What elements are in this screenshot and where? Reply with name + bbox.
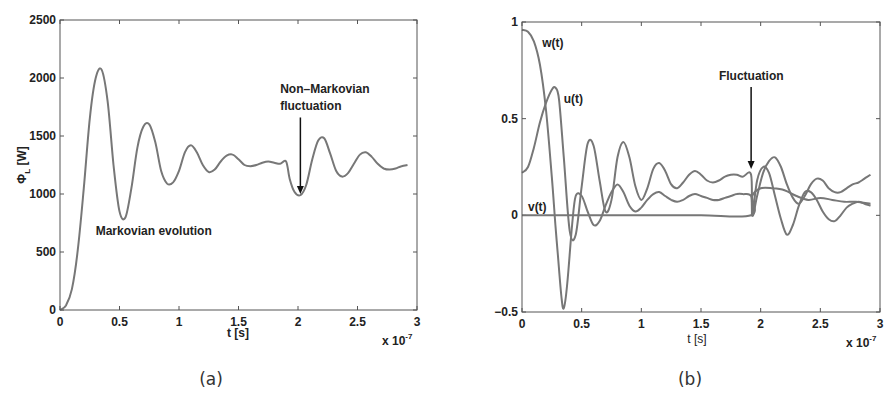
y-tick-label: 0: [49, 303, 56, 317]
x-multiplier-a: x 10-7: [382, 332, 413, 348]
y-tick-label: 500: [36, 245, 56, 259]
x-tick-label: 2.5: [812, 317, 829, 331]
y-tick-labels-a: 05001000150020002500: [29, 13, 417, 317]
y-tick-label: 1: [511, 15, 518, 29]
x-tick-label: 2: [757, 317, 764, 331]
y-tick-labels-b: −0.500.51: [494, 15, 880, 319]
y-tick-label: 0: [511, 208, 518, 222]
y-axis-label-a: ΦL [W]: [15, 146, 32, 183]
x-tick-label: 2: [295, 315, 302, 329]
x-tick-label: 0: [57, 315, 64, 329]
arrow-head-icon: [748, 161, 755, 169]
annotation-label: Markovian evolution: [96, 224, 212, 238]
x-tick-label: 0: [519, 317, 526, 331]
x-tick-labels-a: 00.511.522.53: [57, 20, 421, 329]
annotation-label: v(t): [528, 200, 547, 214]
y-tick-label: 0.5: [501, 112, 518, 126]
figure: 05001000150020002500 00.511.522.53 Marko…: [0, 0, 891, 404]
annotation-label: fluctuation: [280, 99, 341, 113]
series-line-ut: [522, 87, 871, 240]
annotation-label: Fluctuation: [719, 69, 784, 83]
x-tick-label: 2.5: [349, 315, 366, 329]
x-tick-label: 1: [638, 317, 645, 331]
x-tick-label: 1: [176, 315, 183, 329]
annotations-a: Markovian evolutionNon–Markovianfluctuat…: [96, 82, 370, 238]
x-tick-label: 1.5: [693, 317, 710, 331]
x-tick-label: 3: [877, 317, 884, 331]
x-tick-label: 0.5: [573, 317, 590, 331]
y-tick-label: 1000: [29, 187, 56, 201]
x-axis-label-b: t [s]: [687, 332, 706, 346]
x-tick-labels-b: 00.511.522.53: [519, 22, 884, 331]
x-axis-label-a: t [s]: [227, 326, 249, 340]
chart-panel-a: 05001000150020002500 00.511.522.53 Marko…: [15, 13, 421, 389]
series-group-a: [60, 68, 408, 310]
y-tick-label: −0.5: [494, 305, 518, 319]
annotation-label: Non–Markovian: [280, 82, 369, 96]
annotation-label: w(t): [541, 36, 563, 50]
series-line-wt: [522, 30, 871, 309]
chart-panel-b: −0.500.51 00.511.522.53 w(t)u(t)v(t)Fluc…: [494, 15, 883, 389]
x-tick-label: 0.5: [111, 315, 128, 329]
y-tick-label: 2500: [29, 13, 56, 27]
y-tick-label: 2000: [29, 71, 56, 85]
x-tick-label: 3: [414, 315, 421, 329]
sub-caption-a: (a): [199, 369, 223, 389]
series-group-b: [522, 30, 871, 309]
x-multiplier-b: x 10-7: [846, 334, 877, 350]
sub-caption-b: (b): [678, 369, 702, 389]
y-tick-label: 1500: [29, 129, 56, 143]
plot-frame-b: [522, 22, 880, 312]
annotation-label: u(t): [564, 92, 583, 106]
series-line-phil: [60, 68, 408, 310]
